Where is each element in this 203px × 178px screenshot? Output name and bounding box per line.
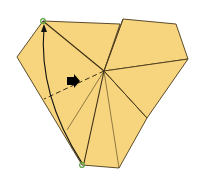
origami-diagram-svg <box>0 0 203 178</box>
origami-diagram: curved fold arrow push arrow valley fold… <box>0 0 203 178</box>
